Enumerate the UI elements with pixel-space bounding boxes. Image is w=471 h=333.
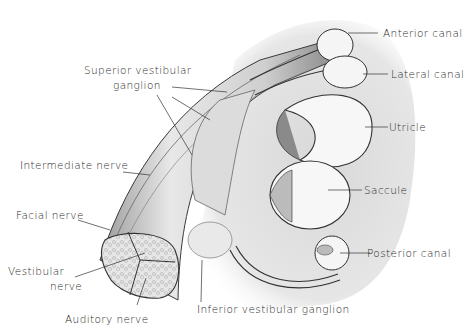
label-facial-nerve: Facial nerve <box>16 209 84 221</box>
label-inferior-vestibular-ganglion: Inferior vestibular ganglion <box>197 303 350 315</box>
inferior-vestibular-ganglion-shape <box>188 222 232 258</box>
label-superior-vestibular-ganglion-line2: ganglion <box>113 79 161 91</box>
label-vestibular-nerve-line2: nerve <box>50 280 82 292</box>
anatomy-diagram: Superior vestibular ganglion Intermediat… <box>0 0 471 333</box>
label-intermediate-nerve: Intermediate nerve <box>20 159 128 171</box>
label-utricle: Utricle <box>389 121 426 133</box>
nerve-cross-section <box>102 232 179 298</box>
label-anterior-canal: Anterior canal <box>383 27 463 39</box>
label-saccule: Saccule <box>364 184 407 196</box>
saccule-shape <box>270 161 350 229</box>
label-vestibular-nerve-line1: Vestibular <box>8 265 64 277</box>
label-posterior-canal: Posterior canal <box>367 247 451 259</box>
lateral-canal-ampulla <box>323 56 367 88</box>
label-superior-vestibular-ganglion-line1: Superior vestibular <box>84 64 192 76</box>
label-auditory-nerve: Auditory nerve <box>65 313 149 325</box>
label-lateral-canal: Lateral canal <box>391 68 464 80</box>
